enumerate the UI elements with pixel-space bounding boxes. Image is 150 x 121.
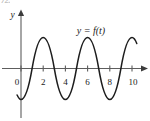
x-axis-arrow-icon [141, 65, 148, 71]
x-tick-label-6: 6 [85, 77, 90, 87]
curve-label: y = f(t) [76, 25, 106, 37]
x-tick-label-10: 10 [129, 77, 139, 87]
y-axis-arrow-icon [18, 10, 24, 17]
figure-container: 72. 0 2 4 6 8 10 y y = f(t) [0, 0, 150, 121]
x-tick-label-0: 0 [15, 77, 20, 87]
x-tick-label-8: 8 [108, 77, 113, 87]
y-axis-label: y [9, 10, 15, 20]
x-tick-label-2: 2 [41, 77, 46, 87]
graph-plot: 0 2 4 6 8 10 y y = f(t) [0, 0, 150, 121]
x-tick-label-4: 4 [63, 77, 68, 87]
